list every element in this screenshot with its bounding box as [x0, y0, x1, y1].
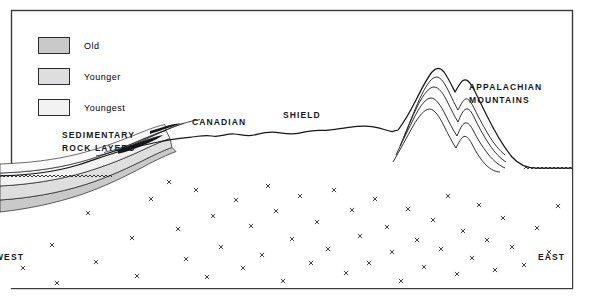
label-sedimentary-line1: SEDIMENTARY	[62, 130, 135, 141]
legend-item-youngest: Youngest	[38, 99, 125, 116]
diagram-canvas: Old Younger Youngest SEDIMENTARY ROCK LA…	[0, 0, 595, 308]
legend-label-youngest: Youngest	[84, 103, 125, 113]
legend-swatch-younger	[38, 68, 70, 85]
label-appalachian-line2: MOUNTAINS	[469, 95, 530, 106]
label-sedimentary-line2: ROCK LAYERS	[62, 143, 135, 154]
legend-item-old: Old	[38, 37, 100, 54]
label-canadian: CANADIAN	[192, 117, 246, 128]
legend-swatch-old	[38, 37, 70, 54]
label-west: WEST	[0, 252, 24, 263]
label-appalachian-line1: APPALACHIAN	[469, 82, 542, 93]
legend-label-younger: Younger	[84, 72, 121, 82]
legend-swatch-youngest	[38, 99, 70, 116]
legend-label-old: Old	[84, 41, 100, 51]
label-east: EAST	[538, 252, 565, 263]
label-shield: SHIELD	[283, 110, 321, 121]
legend-item-younger: Younger	[38, 68, 121, 85]
